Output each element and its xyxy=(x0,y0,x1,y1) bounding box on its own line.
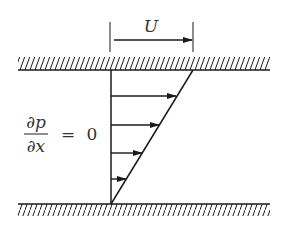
bottom-wall xyxy=(18,204,270,216)
bottom-wall-hatching xyxy=(18,204,270,216)
velocity-label: U xyxy=(144,16,159,36)
top-wall-hatching xyxy=(18,57,270,70)
couette-flow-diagram: U ∂p ∂x = 0 xyxy=(0,0,289,228)
linear-profile-line xyxy=(111,70,193,204)
top-wall xyxy=(18,57,270,70)
equation-equals: = xyxy=(61,124,75,144)
equation-denominator: ∂x xyxy=(27,136,46,156)
plate-velocity-indicator: U xyxy=(110,16,193,52)
velocity-profile xyxy=(111,70,193,204)
pressure-gradient-equation: ∂p ∂x = 0 xyxy=(24,112,97,156)
equation-value: 0 xyxy=(87,124,98,144)
equation-numerator: ∂p xyxy=(26,112,46,132)
